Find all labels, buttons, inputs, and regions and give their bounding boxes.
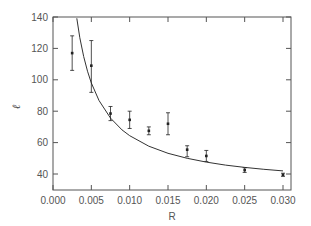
x-tick-label: 0.015	[155, 195, 180, 206]
marker	[109, 112, 112, 115]
y-tick-label: 120	[31, 43, 48, 54]
y-tick-label: 40	[37, 169, 49, 180]
data-point	[89, 41, 93, 93]
x-axis-ticks: 0.0000.0050.0100.0150.0200.0250.030	[40, 17, 295, 206]
axes-box	[53, 17, 291, 190]
data-point	[204, 150, 208, 161]
fit-line	[77, 18, 283, 171]
marker	[282, 173, 285, 176]
data-point	[281, 173, 285, 176]
y-tick-label: 140	[31, 12, 48, 23]
marker	[71, 52, 74, 55]
x-axis-label: R	[168, 211, 175, 222]
marker	[186, 148, 189, 151]
x-tick-label: 0.025	[232, 195, 257, 206]
marker	[148, 130, 151, 133]
data-point	[243, 168, 247, 173]
data-point	[109, 106, 113, 120]
marker	[243, 169, 246, 172]
fit-curve	[77, 18, 283, 171]
x-tick-label: 0.030	[270, 195, 295, 206]
x-tick-label: 0.005	[79, 195, 104, 206]
data-point	[128, 111, 132, 128]
chart: 0.0000.0050.0100.0150.0200.0250.030 4060…	[0, 0, 311, 226]
marker	[205, 155, 208, 158]
y-axis-label: ℓ	[10, 104, 23, 109]
x-tick-label: 0.020	[194, 195, 219, 206]
x-tick-label: 0.000	[40, 195, 65, 206]
y-tick-label: 60	[37, 137, 49, 148]
y-axis-ticks: 406080100120140	[31, 12, 291, 180]
data-point	[185, 146, 189, 157]
data-point	[166, 113, 170, 135]
plot-frame	[53, 17, 291, 190]
y-tick-label: 80	[37, 106, 49, 117]
data-point	[70, 36, 74, 71]
x-tick-label: 0.010	[117, 195, 142, 206]
marker	[167, 122, 170, 125]
y-tick-label: 100	[31, 74, 48, 85]
marker	[128, 119, 131, 122]
data-point	[147, 127, 151, 135]
marker	[90, 64, 93, 67]
